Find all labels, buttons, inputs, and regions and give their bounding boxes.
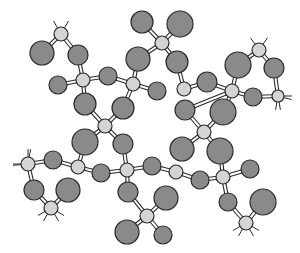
large-atom: [207, 138, 233, 164]
large-atom: [72, 129, 98, 155]
bond-stub: [38, 212, 45, 216]
large-atom: [126, 47, 150, 71]
small-atom: [120, 163, 134, 177]
small-atom: [197, 125, 211, 139]
large-atom: [113, 134, 133, 154]
small-atom: [272, 90, 284, 102]
large-atom: [241, 160, 259, 178]
bond-stub: [54, 21, 58, 28]
large-atom: [264, 58, 284, 78]
small-atom: [76, 73, 90, 87]
bond-stub: [44, 214, 48, 221]
large-atom: [166, 51, 188, 73]
large-atom: [148, 82, 166, 100]
large-atom: [118, 182, 138, 202]
bond-stub: [284, 98, 292, 100]
large-atom: [112, 97, 134, 119]
bond-stub: [250, 38, 255, 45]
large-atom: [244, 88, 262, 106]
small-atom: [252, 43, 266, 57]
large-atom: [44, 151, 62, 169]
bond-stub: [233, 227, 240, 231]
large-atom: [131, 11, 153, 33]
small-atom: [126, 77, 140, 91]
bond-stub: [13, 165, 21, 166]
small-atom: [177, 82, 191, 96]
molecule-canvas: [0, 0, 300, 253]
large-atom: [24, 180, 44, 200]
large-atom: [56, 178, 80, 202]
small-atom: [21, 157, 35, 171]
small-atom: [71, 160, 85, 174]
large-atom: [30, 41, 54, 65]
large-atom: [154, 226, 172, 244]
bond-stub: [263, 38, 268, 45]
small-atom: [98, 119, 112, 133]
large-atom: [115, 220, 139, 244]
bond-stub: [57, 212, 64, 216]
large-atom: [68, 45, 88, 65]
large-atom: [210, 99, 236, 125]
large-atom: [143, 157, 161, 175]
bond-stub: [65, 21, 69, 28]
small-atom: [54, 27, 68, 41]
large-atom: [154, 186, 178, 210]
small-atom: [216, 170, 230, 184]
bond-stub: [55, 214, 59, 221]
bond-stub: [252, 227, 259, 231]
small-atom: [169, 165, 183, 179]
large-atom: [170, 137, 194, 161]
small-atom: [239, 216, 253, 230]
large-atom: [191, 171, 209, 189]
bond-stub: [239, 229, 243, 236]
molecular-structure-diagram: [0, 0, 300, 253]
large-atom: [225, 52, 251, 78]
bond-stub: [250, 229, 254, 236]
large-atom: [74, 93, 96, 115]
bond-stub: [279, 102, 280, 110]
bond-stub: [29, 149, 30, 157]
small-atom: [140, 209, 154, 223]
small-atom: [155, 36, 169, 50]
large-atom: [175, 100, 195, 120]
bond-stub: [276, 102, 277, 110]
small-atom: [225, 84, 239, 98]
large-atom: [219, 193, 237, 211]
large-atom: [197, 72, 217, 92]
large-atom: [92, 164, 110, 182]
large-atom: [99, 67, 117, 85]
large-atom: [49, 76, 67, 94]
large-atom: [250, 189, 276, 215]
small-atom: [44, 201, 58, 215]
large-atom: [167, 11, 193, 37]
